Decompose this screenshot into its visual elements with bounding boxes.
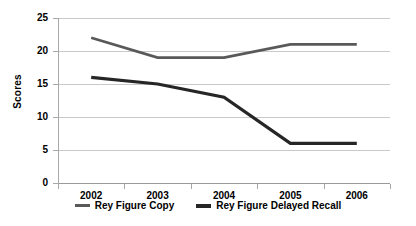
legend-label: Rey Figure Copy <box>95 200 174 211</box>
chart-legend: Rey Figure CopyRey Figure Delayed Recall <box>0 200 416 211</box>
legend-line-icon <box>75 204 90 207</box>
legend-label: Rey Figure Delayed Recall <box>216 200 341 211</box>
series-line <box>91 77 357 143</box>
legend-entry[interactable]: Rey Figure Delayed Recall <box>196 200 341 211</box>
series-line <box>91 38 357 58</box>
legend-line-icon <box>196 204 211 208</box>
line-chart: Scores 2520151050 20022003200420052006 R… <box>0 0 416 226</box>
legend-entry[interactable]: Rey Figure Copy <box>75 200 174 211</box>
series-lines <box>0 0 416 226</box>
